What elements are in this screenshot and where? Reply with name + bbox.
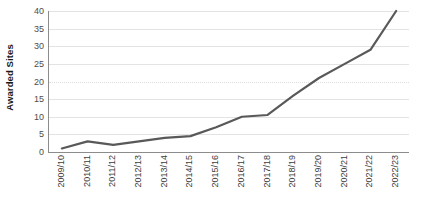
y-axis-title-label: Awarded Sites	[4, 44, 15, 111]
y-tick-label: 40	[34, 6, 44, 16]
y-tick-label: 25	[34, 59, 44, 69]
series-polyline	[62, 11, 396, 148]
y-axis-title: Awarded Sites	[0, 0, 18, 155]
x-tick-label: 2022/23	[369, 153, 421, 205]
y-axis-tick-labels: 0510152025303540	[18, 0, 48, 160]
y-tick-label: 20	[34, 77, 44, 87]
line-chart: Awarded Sites 0510152025303540 2009/1020…	[0, 0, 430, 205]
y-tick-label: 35	[34, 24, 44, 34]
y-tick-label: 5	[39, 129, 44, 139]
series-line-awarded-sites	[49, 11, 409, 152]
plot-area	[48, 11, 409, 153]
y-tick-label: 30	[34, 41, 44, 51]
x-axis-tick-labels: 2009/102010/112011/122012/132013/142014/…	[48, 153, 408, 205]
x-tick-label-text: 2022/23	[390, 155, 400, 188]
y-tick-label: 15	[34, 94, 44, 104]
y-tick-label: 10	[34, 112, 44, 122]
